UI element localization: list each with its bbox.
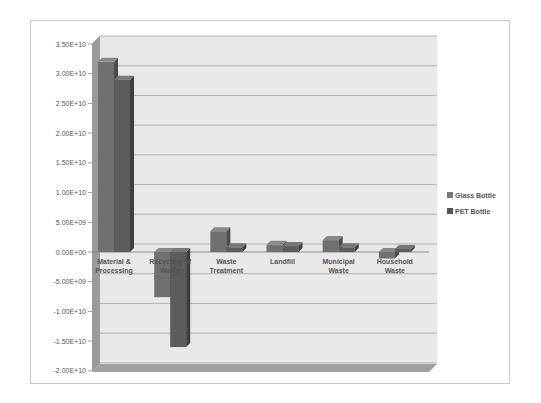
- bar: [283, 242, 303, 252]
- legend-swatch-glass: [447, 192, 453, 198]
- y-tick-label: -1.50E+10: [54, 338, 87, 345]
- y-tick-label: 1.50E+10: [56, 159, 86, 166]
- x-category-label: Household: [377, 258, 413, 265]
- bar: [339, 243, 359, 252]
- legend-swatch-pet: [447, 208, 453, 214]
- bar: [395, 245, 415, 252]
- x-category-label: Waste: [160, 267, 180, 274]
- x-category-label: Processing: [95, 267, 133, 275]
- legend-label-glass: Glass Bottle: [455, 192, 496, 199]
- y-tick-label: 3.50E+10: [56, 41, 86, 48]
- x-category-label: Material &: [97, 258, 130, 265]
- y-tick-label: 3.00E+10: [56, 70, 86, 77]
- y-tick-label: 2.50E+10: [56, 100, 86, 107]
- y-tick-label: 5.00E+09: [56, 219, 86, 226]
- x-category-label: Waste: [216, 258, 236, 265]
- x-category-label: Municipal: [323, 258, 355, 266]
- x-category-label: Waste: [385, 267, 405, 274]
- bar: [114, 76, 134, 252]
- x-category-label: Treatment: [210, 267, 244, 274]
- y-tick-label: -5.00E+09: [54, 278, 87, 285]
- bar: [226, 243, 246, 252]
- x-category-label: Waste: [328, 267, 348, 274]
- x-category-label: Recycling of: [149, 258, 191, 266]
- legend: Glass Bottle PET Bottle: [447, 187, 496, 219]
- y-tick-label: 0.00E+00: [56, 249, 86, 256]
- y-tick-label: -2.00E+10: [54, 367, 87, 374]
- x-category-label: Landfill: [270, 258, 295, 265]
- legend-label-pet: PET Bottle: [455, 208, 490, 215]
- y-tick-label: 2.00E+10: [56, 130, 86, 137]
- legend-item-pet: PET Bottle: [447, 203, 496, 219]
- legend-item-glass: Glass Bottle: [447, 187, 496, 203]
- y-tick-label: 1.00E+10: [56, 189, 86, 196]
- y-tick-label: -1.00E+10: [54, 308, 87, 315]
